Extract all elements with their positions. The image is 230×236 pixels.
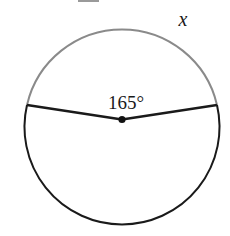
arc-label: x [178, 8, 188, 30]
circle-diagram: 165° x [0, 0, 230, 236]
diagram-svg: 165° x [0, 0, 230, 236]
central-angle-label: 165° [108, 92, 144, 113]
center-point [118, 116, 125, 123]
top-crop-bar [78, 0, 99, 2]
